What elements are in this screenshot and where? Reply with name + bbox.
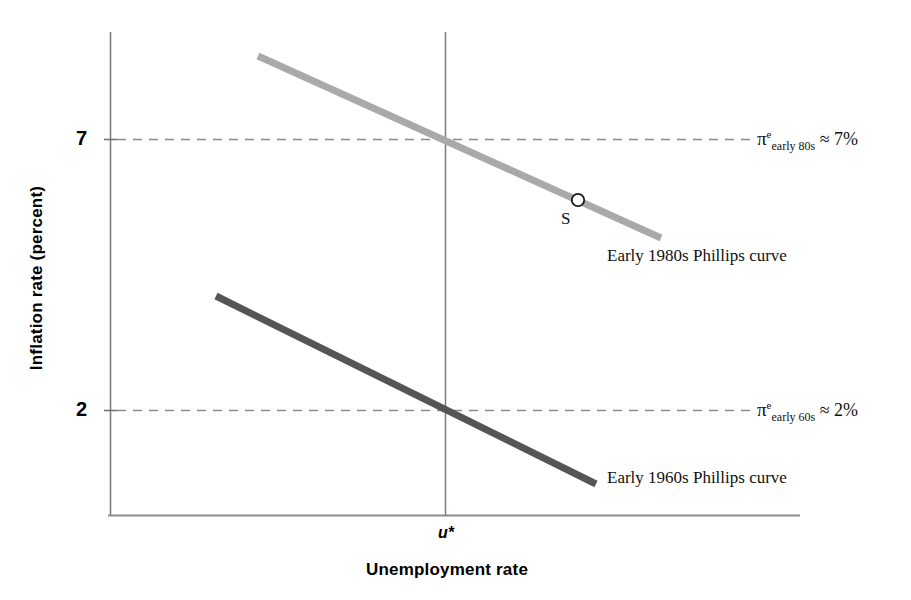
x-tick-label-natural-rate: u* — [410, 524, 482, 542]
ustar-text: u* — [438, 524, 454, 541]
expected-inflation-60s-label: πeearly 60s ≈ 2% — [757, 399, 858, 425]
plot-canvas — [0, 0, 911, 600]
expected-inflation-60s-value: 2% — [834, 400, 858, 420]
expected-inflation-80s-label: πeearly 80s ≈ 7% — [757, 128, 858, 154]
pi-subscript-80s: early 80s — [771, 139, 815, 153]
relation-symbol-80s: ≈ — [820, 129, 830, 149]
phillips-curve-figure: Inflation rate (percent) Unemployment ra… — [0, 0, 911, 600]
curve-label-early-1960s: Early 1960s Phillips curve — [607, 468, 787, 488]
y-tick-label-2: 2 — [76, 398, 87, 421]
x-axis-title: Unemployment rate — [332, 560, 562, 580]
curve-early-1960s — [216, 296, 596, 484]
pi-symbol-60s: π — [757, 399, 767, 420]
pi-symbol-80s: π — [757, 128, 767, 149]
expected-inflation-80s-value: 7% — [834, 129, 858, 149]
point-s-marker — [572, 194, 584, 206]
y-tick-label-7: 7 — [76, 127, 87, 150]
pi-subscript-60s: early 60s — [771, 410, 815, 424]
relation-symbol-60s: ≈ — [820, 400, 830, 420]
point-s-label: S — [561, 209, 570, 229]
y-axis-title: Inflation rate (percent) — [27, 163, 47, 393]
curve-label-early-1980s: Early 1980s Phillips curve — [607, 246, 787, 266]
curve-early-1980s — [258, 56, 661, 238]
